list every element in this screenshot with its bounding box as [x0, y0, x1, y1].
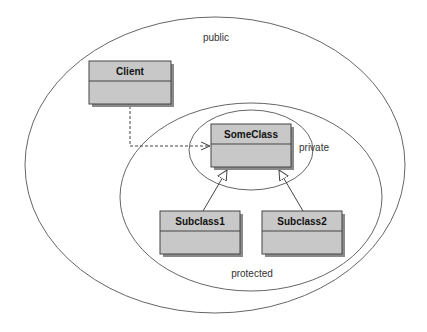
- class-name-client: Client: [116, 66, 144, 77]
- class-name-subclass2: Subclass2: [277, 216, 327, 227]
- inheritance-arrow-subclass2: [279, 170, 303, 211]
- dependency-arrow: [130, 106, 210, 146]
- class-subclass1[interactable]: Subclass1: [160, 211, 243, 257]
- public-label: public: [203, 32, 229, 43]
- class-someclass[interactable]: SomeClass: [211, 124, 294, 170]
- class-name-subclass1: Subclass1: [175, 216, 225, 227]
- private-label: private: [299, 142, 329, 153]
- protected-label: protected: [231, 268, 273, 279]
- visibility-diagram: public protected private Client SomeClas…: [0, 0, 427, 332]
- class-subclass2[interactable]: Subclass2: [262, 211, 345, 257]
- class-name-someclass: SomeClass: [224, 129, 278, 140]
- class-client[interactable]: Client: [89, 61, 174, 107]
- inheritance-arrow-subclass1: [203, 170, 227, 211]
